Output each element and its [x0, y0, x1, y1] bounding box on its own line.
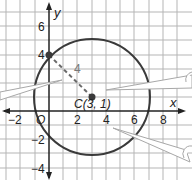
x-tick-4: 4 — [103, 113, 110, 127]
x-tick-neg2: −2 — [8, 113, 22, 127]
y-tick-6: 6 — [38, 20, 45, 34]
x-tick-2: 2 — [74, 113, 81, 127]
x-axis-label: x — [169, 95, 177, 110]
radius-label: 4 — [74, 62, 81, 76]
x-tick-6: 6 — [131, 113, 138, 127]
coordinate-plane-diagram: y x O 6 4 −2 −4 −2 2 4 6 8 4 C(3, 1) — [0, 0, 192, 180]
x-tick-8: 8 — [160, 113, 167, 127]
point-0-4 — [46, 52, 53, 59]
radius-segment — [49, 55, 92, 97]
center-label: C(3, 1) — [74, 97, 111, 111]
y-tick-4: 4 — [38, 48, 45, 62]
y-tick-neg2: −2 — [31, 133, 45, 147]
y-tick-neg4: −4 — [31, 162, 45, 176]
origin-label: O — [36, 113, 45, 127]
